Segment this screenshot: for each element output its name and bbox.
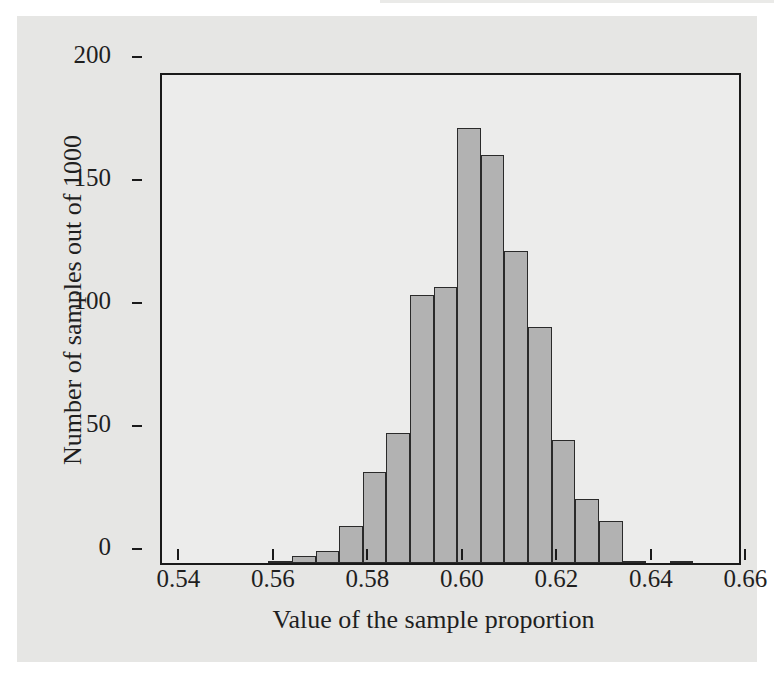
figure-container: 050100150200 0.540.560.580.600.620.640.6… bbox=[0, 0, 774, 678]
histogram-bar bbox=[292, 556, 316, 563]
plot-frame bbox=[160, 73, 741, 565]
histogram-bar bbox=[434, 287, 458, 563]
histogram-bars bbox=[162, 75, 739, 563]
x-axis-tick-label: 0.56 bbox=[223, 565, 323, 593]
x-axis-tick-label: 0.58 bbox=[317, 565, 417, 593]
chart-panel: 050100150200 0.540.560.580.600.620.640.6… bbox=[17, 16, 757, 662]
histogram-bar bbox=[552, 440, 576, 563]
histogram-bar bbox=[623, 561, 647, 564]
histogram-bar bbox=[268, 561, 292, 564]
x-axis-tick-label: 0.62 bbox=[506, 565, 606, 593]
y-axis-title: Number of samples out of 1000 bbox=[58, 54, 88, 546]
y-axis-tick bbox=[132, 302, 142, 304]
x-axis-tick bbox=[272, 549, 274, 560]
histogram-bar bbox=[316, 551, 340, 563]
y-axis-tick bbox=[132, 179, 142, 181]
histogram-bar bbox=[386, 433, 410, 563]
scan-artifact bbox=[380, 0, 774, 3]
x-axis-tick bbox=[744, 549, 746, 560]
x-axis-tick bbox=[366, 549, 368, 560]
histogram-bar bbox=[599, 521, 623, 563]
histogram-bar bbox=[670, 561, 694, 564]
histogram-bar bbox=[410, 295, 434, 563]
y-axis-tick bbox=[132, 548, 142, 550]
x-axis-tick-label: 0.66 bbox=[695, 565, 774, 593]
histogram-bar bbox=[457, 128, 481, 563]
y-axis-tick bbox=[132, 56, 142, 58]
x-axis-tick-label: 0.64 bbox=[601, 565, 701, 593]
histogram-bar bbox=[575, 499, 599, 563]
x-axis-tick bbox=[650, 549, 652, 560]
histogram-bar bbox=[481, 155, 505, 563]
histogram-bar bbox=[528, 327, 552, 563]
x-axis-tick bbox=[177, 549, 179, 560]
histogram-bar bbox=[504, 251, 528, 563]
y-axis-tick bbox=[132, 425, 142, 427]
x-axis-title: Value of the sample proportion bbox=[143, 605, 724, 635]
x-axis-tick-label: 0.60 bbox=[412, 565, 512, 593]
x-axis-tick-label: 0.54 bbox=[128, 565, 228, 593]
x-axis-tick bbox=[555, 549, 557, 560]
histogram-bar bbox=[339, 526, 363, 563]
x-axis-tick bbox=[461, 549, 463, 560]
